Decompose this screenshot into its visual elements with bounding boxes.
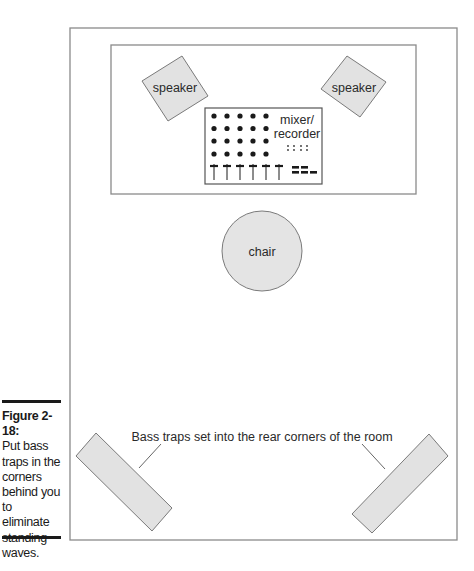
callout-line-left: [139, 444, 161, 468]
mixer-label-line1: mixer/: [280, 113, 315, 127]
mixer-recorder: mixer/ recorder: [205, 108, 322, 184]
speaker-right-label: speaker: [332, 81, 376, 95]
room-diagram: speaker speaker mixer/: [0, 0, 474, 571]
chair-label: chair: [248, 245, 275, 259]
speaker-right: speaker: [321, 56, 386, 117]
chair: chair: [222, 211, 302, 291]
bass-trap-callout: Bass traps set into the rear corners of …: [131, 430, 392, 444]
callout-line-right: [362, 444, 385, 469]
speaker-left-label: speaker: [153, 81, 197, 95]
mixer-label-line2: recorder: [274, 127, 321, 141]
speaker-left: speaker: [142, 56, 208, 121]
